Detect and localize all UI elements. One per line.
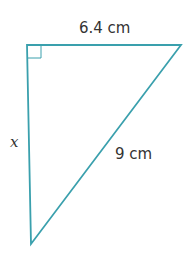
left-side-label: x (10, 133, 18, 151)
hypotenuse-label: 9 cm (115, 145, 152, 163)
top-side-label: 6.4 cm (79, 19, 130, 37)
triangle-diagram (0, 0, 185, 255)
triangle (27, 45, 181, 244)
right-angle-marker (27, 45, 41, 58)
